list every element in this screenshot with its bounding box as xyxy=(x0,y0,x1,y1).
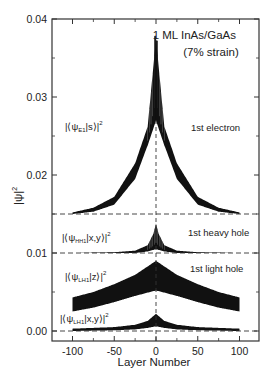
label-1st-electron: 1st electron xyxy=(191,122,240,133)
svg-text:|ψ|2: |ψ|2 xyxy=(11,187,24,205)
y-tick-label: 0.02 xyxy=(27,169,48,181)
chart-canvas: -100-500501000.000.010.020.030.04 1 ML I… xyxy=(0,0,272,381)
electron-peak-spike xyxy=(155,36,156,120)
y-tick-label: 0.04 xyxy=(27,13,48,25)
y-tick-label: 0.03 xyxy=(27,91,48,103)
label-hh1-xy-component: |⟨ψHH1|x,y⟩|2 xyxy=(62,231,111,244)
label-1st-heavy-hole: 1st heavy hole xyxy=(188,227,249,238)
label-lh1-xy-component: |⟨ψLH1|x,y⟩|2 xyxy=(60,312,109,325)
y-tick-label: 0.00 xyxy=(27,325,48,337)
label-lh1-z-component: |⟨ψLH1|z⟩|2 xyxy=(65,270,107,283)
x-tick-label: 50 xyxy=(192,345,204,357)
y-axis-title: |ψ|2 xyxy=(11,187,24,205)
chart-subtitle: (7% strain) xyxy=(183,46,239,58)
x-tick-label: 100 xyxy=(231,345,249,357)
label-e1-s-component: |⟨ψE1|s⟩|2 xyxy=(65,120,103,133)
y-tick-label: 0.01 xyxy=(27,247,48,259)
label-1st-light-hole: 1st light hole xyxy=(190,263,243,274)
x-axis-title: Layer Number xyxy=(118,356,191,368)
chart-title: 1 ML InAs/GaAs xyxy=(153,29,237,41)
wavefunction-chart: -100-500501000.000.010.020.030.04 1 ML I… xyxy=(0,0,272,381)
electron-peak-spike xyxy=(156,41,157,121)
x-tick-label: -100 xyxy=(62,345,83,357)
